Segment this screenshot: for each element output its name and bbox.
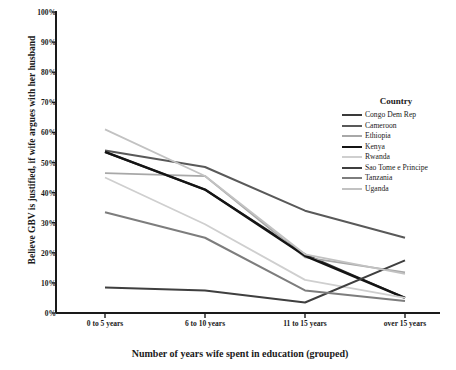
legend-color-swatch	[342, 125, 362, 127]
legend-item[interactable]: Tanzania	[342, 173, 456, 184]
x-axis-title: Number of years wife spent in education …	[40, 348, 440, 359]
legend-item[interactable]: Rwanda	[342, 152, 456, 163]
legend-item-label: Ethiopia	[365, 131, 391, 141]
legend-item-label: Sao Tome e Principe	[365, 163, 428, 173]
legend-color-swatch	[342, 135, 362, 137]
x-tick-label: 0 to 5 years	[87, 319, 123, 328]
legend-color-swatch	[342, 156, 362, 158]
legend-item-label: Cameroon	[365, 121, 397, 131]
legend-item[interactable]: Sao Tome e Principe	[342, 163, 456, 174]
legend-item[interactable]: Uganda	[342, 184, 456, 195]
legend-color-swatch	[342, 177, 362, 179]
x-tick-label: 6 to 10 years	[185, 319, 225, 328]
legend-item[interactable]: Cameroon	[342, 121, 456, 132]
legend-item-label: Rwanda	[365, 152, 390, 162]
legend-item[interactable]: Ethiopia	[342, 131, 456, 142]
legend-title: Country	[336, 96, 456, 106]
legend-item-label: Tanzania	[365, 173, 392, 183]
line-chart: Believe GBV is justified, if wife argues…	[0, 0, 456, 370]
x-tick-label: over 15 years	[384, 319, 426, 328]
legend-item[interactable]: Kenya	[342, 142, 456, 153]
legend: Country Congo Dem RepCameroonEthiopiaKen…	[342, 96, 456, 194]
legend-item[interactable]: Congo Dem Rep	[342, 110, 456, 121]
legend-color-swatch	[342, 146, 362, 148]
legend-item-label: Uganda	[365, 184, 389, 194]
legend-item-label: Kenya	[365, 142, 385, 152]
legend-color-swatch	[342, 114, 362, 116]
legend-color-swatch	[342, 167, 362, 169]
legend-item-label: Congo Dem Rep	[365, 110, 416, 120]
legend-color-swatch	[342, 188, 362, 190]
x-tick-label: 11 to 15 years	[283, 319, 327, 328]
